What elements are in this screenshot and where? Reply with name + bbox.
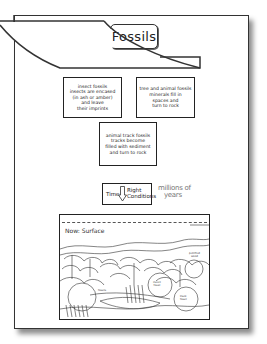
time-conditions-box: Time Right Conditions (102, 183, 152, 205)
landscape-illustration: Now: Surface petrified (59, 214, 210, 320)
down-arrow-icon (118, 186, 127, 202)
label-line: wood (189, 255, 200, 258)
box-line: insects are encased (70, 89, 116, 95)
years-line: years (158, 192, 191, 199)
box-line: their imprints (70, 106, 116, 112)
tree-animal-fossils-box: tree and animal fossils minerals fill in… (136, 77, 195, 118)
animal-track-fossils-box: animal track fossils tracks become fille… (99, 122, 157, 166)
petrified-wood-label: petrified wood (189, 252, 200, 258)
conditions-label: Conditions (127, 193, 151, 199)
box-line: turn to rock (140, 103, 192, 109)
label-line: fossil (153, 284, 161, 287)
track-fossil-circle-label: track fossil (180, 295, 187, 301)
insect-fossil-circle-label: insect fossil (153, 281, 161, 287)
label-line: fossil (180, 298, 187, 301)
forest-drawing (60, 215, 209, 319)
fossils-label: fossils (98, 289, 106, 292)
millions-of-years-label: millions of years (158, 185, 191, 199)
insect-fossils-box: insect fossils insects are encased (in a… (63, 77, 122, 118)
page-curl (0, 0, 205, 72)
box-line: and turn to rock (105, 150, 150, 156)
box-line: filled with sediment (105, 144, 150, 150)
